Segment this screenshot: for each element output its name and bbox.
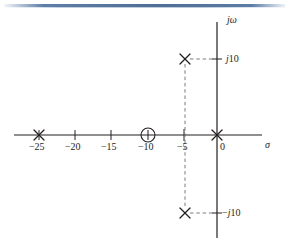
leader-line-group	[185, 59, 215, 213]
pole-marker-minus-5-plus-j10	[180, 54, 190, 64]
axis-group	[14, 22, 262, 238]
xtick-label-minus-25: −25	[29, 142, 44, 152]
plot-svg	[0, 0, 290, 251]
pole-marker-minus-5-minus-j10	[180, 208, 190, 218]
xtick-label-minus-5: −5	[177, 142, 187, 152]
xtick-label-minus-20: −20	[65, 142, 80, 152]
ytick-label-minus-j10-value: 10	[230, 207, 240, 218]
pole-zero-figure: −25 −20 −15 −10 −5 0 j10 −j10 jω σ	[0, 0, 290, 251]
xtick-label-minus-10: −10	[138, 142, 153, 152]
tick-group	[39, 59, 222, 213]
s-plane-plot	[0, 0, 290, 251]
ytick-label-j10-value: 10	[229, 53, 239, 64]
ytick-label-j10: j10	[226, 54, 239, 64]
imag-axis-label: jω	[227, 15, 237, 25]
real-axis-label: σ	[265, 140, 270, 150]
ytick-label-minus-j10: −j10	[222, 208, 240, 218]
xtick-label-minus-15: −15	[101, 142, 116, 152]
xtick-label-zero: 0	[220, 142, 225, 152]
pole-marker-group	[34, 54, 222, 218]
